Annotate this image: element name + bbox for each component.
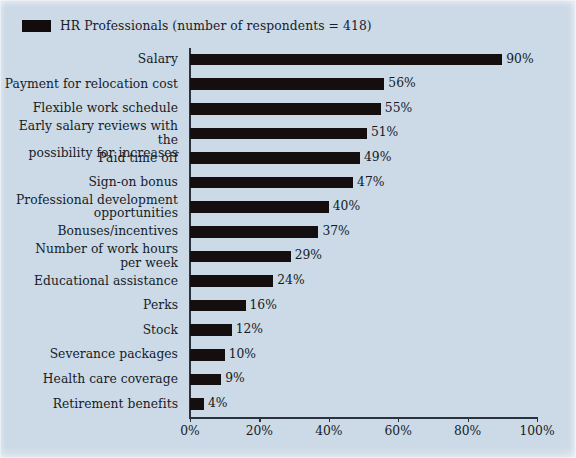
- bar-series: 90%56%55%51%49%47%40%37%29%24%16%12%10%9…: [190, 48, 537, 417]
- legend-label: HR Professionals (number of respondents …: [60, 19, 372, 33]
- bar-row: 56%: [190, 73, 537, 96]
- bar: [190, 374, 221, 386]
- bar-value-label: 40%: [333, 197, 360, 216]
- category-label: Flexible work schedule: [0, 102, 184, 115]
- category-label: Health care coverage: [0, 373, 184, 386]
- x-axis-tick-mark: [398, 417, 399, 422]
- category-label: Educational assistance: [0, 275, 184, 288]
- category-label-line: Salary: [0, 53, 178, 66]
- bar-value-label: 56%: [388, 74, 415, 93]
- x-axis-tick-label: 0%: [180, 424, 200, 438]
- category-label-line: Number of work hours: [0, 243, 178, 256]
- bar-value-label: 9%: [225, 369, 245, 388]
- bar-row: 12%: [190, 319, 537, 342]
- bar-row: 4%: [190, 392, 537, 415]
- x-axis-tick-label: 100%: [519, 424, 554, 438]
- bar: [190, 226, 318, 238]
- x-axis-tick-label: 40%: [315, 424, 342, 438]
- bar-row: 51%: [190, 122, 537, 145]
- bar: [190, 128, 367, 140]
- bar-row: 55%: [190, 97, 537, 120]
- plot-area: 90%56%55%51%49%47%40%37%29%24%16%12%10%9…: [190, 48, 537, 417]
- chart-legend: HR Professionals (number of respondents …: [22, 19, 372, 33]
- bar: [190, 275, 273, 287]
- category-label-line: Professional development: [0, 194, 178, 207]
- category-label: Payment for relocation cost: [0, 78, 184, 91]
- bar-value-label: 55%: [385, 99, 412, 118]
- category-label-line: Educational assistance: [0, 275, 178, 288]
- bar: [190, 349, 225, 361]
- category-label: Stock: [0, 324, 184, 337]
- bar: [190, 300, 246, 312]
- bar-row: 10%: [190, 343, 537, 366]
- chart-figure: HR Professionals (number of respondents …: [0, 0, 576, 458]
- category-label: Paid time off: [0, 152, 184, 165]
- bar: [190, 251, 291, 263]
- x-axis-tick-mark: [259, 417, 260, 422]
- category-label-line: Severance packages: [0, 348, 178, 361]
- category-label-line: Retirement benefits: [0, 398, 178, 411]
- bar-value-label: 47%: [357, 173, 384, 192]
- bar-value-label: 51%: [371, 123, 398, 142]
- category-label-line: Flexible work schedule: [0, 102, 178, 115]
- category-label-line: opportunities: [0, 207, 178, 220]
- category-label: Sign-on bonus: [0, 176, 184, 189]
- category-label: Perks: [0, 299, 184, 312]
- category-label: Salary: [0, 53, 184, 66]
- bar-row: 49%: [190, 146, 537, 169]
- bar-row: 29%: [190, 245, 537, 268]
- category-label: Retirement benefits: [0, 398, 184, 411]
- x-axis-tick-mark: [468, 417, 469, 422]
- category-label-line: Bonuses/incentives: [0, 225, 178, 238]
- x-axis-tick-mark: [537, 417, 538, 422]
- bar-value-label: 37%: [322, 222, 349, 241]
- x-axis-tick-label: 20%: [246, 424, 273, 438]
- category-label-line: Stock: [0, 324, 178, 337]
- bar-row: 16%: [190, 294, 537, 317]
- bar-value-label: 24%: [277, 271, 304, 290]
- category-axis-labels: SalaryPayment for relocation costFlexibl…: [0, 48, 184, 417]
- bar-row: 40%: [190, 196, 537, 219]
- x-axis-ticks: 0%20%40%60%80%100%: [190, 417, 538, 455]
- category-label: Professional developmentopportunities: [0, 194, 184, 221]
- bar-value-label: 16%: [250, 296, 277, 315]
- legend-swatch-icon: [22, 20, 51, 32]
- x-axis-tick-label: 80%: [454, 424, 481, 438]
- bar: [190, 177, 353, 189]
- category-label: Bonuses/incentives: [0, 225, 184, 238]
- bar-row: 90%: [190, 48, 537, 71]
- bar: [190, 152, 360, 164]
- category-label-line: Perks: [0, 299, 178, 312]
- bar: [190, 78, 384, 90]
- bar-value-label: 10%: [229, 345, 256, 364]
- category-label-line: per week: [0, 257, 178, 270]
- bar: [190, 54, 502, 66]
- bar-row: 9%: [190, 368, 537, 391]
- x-axis-tick-mark: [190, 417, 191, 422]
- category-label-line: Early salary reviews with the: [0, 120, 178, 147]
- bar: [190, 201, 329, 213]
- category-label: Severance packages: [0, 348, 184, 361]
- bar-value-label: 29%: [295, 246, 322, 265]
- bar-value-label: 12%: [236, 320, 263, 339]
- bar: [190, 398, 204, 410]
- bar-value-label: 49%: [364, 148, 391, 167]
- bar-value-label: 4%: [208, 394, 228, 413]
- bar: [190, 324, 232, 336]
- x-axis-tick-label: 60%: [385, 424, 412, 438]
- bar-value-label: 90%: [506, 50, 533, 69]
- category-label-line: Sign-on bonus: [0, 176, 178, 189]
- category-label-line: Paid time off: [0, 152, 178, 165]
- bar: [190, 103, 381, 115]
- category-label-line: Payment for relocation cost: [0, 78, 178, 91]
- category-label-line: Health care coverage: [0, 373, 178, 386]
- bar-row: 37%: [190, 220, 537, 243]
- bar-row: 24%: [190, 269, 537, 292]
- category-label: Number of work hoursper week: [0, 243, 184, 270]
- x-axis-tick-mark: [329, 417, 330, 422]
- bar-row: 47%: [190, 171, 537, 194]
